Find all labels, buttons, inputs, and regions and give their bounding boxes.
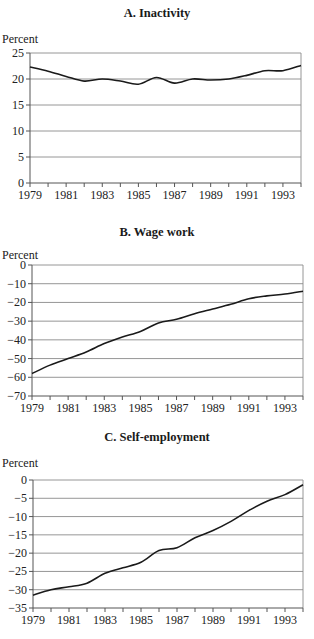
y-tick-label: −50 bbox=[7, 352, 26, 366]
y-tick-label: −15 bbox=[8, 528, 27, 542]
x-tick-label: 1987 bbox=[163, 188, 187, 202]
x-tick-label: 1983 bbox=[93, 613, 117, 627]
x-tick-label: 1983 bbox=[92, 401, 116, 415]
x-tick-label: 1993 bbox=[273, 401, 297, 415]
y-tick-label: −10 bbox=[8, 510, 27, 524]
x-tick-label: 1981 bbox=[54, 188, 78, 202]
line-chart-inactivity: 0510152025197919811983198519871989199119… bbox=[0, 0, 314, 205]
y-tick-label: −5 bbox=[14, 491, 27, 505]
x-tick-label: 1983 bbox=[90, 188, 114, 202]
x-tick-label: 1979 bbox=[18, 188, 42, 202]
x-tick-label: 1989 bbox=[199, 188, 223, 202]
x-tick-label: 1989 bbox=[201, 401, 225, 415]
y-tick-label: −10 bbox=[7, 277, 26, 291]
x-tick-label: 1987 bbox=[165, 401, 189, 415]
y-tick-label: −30 bbox=[8, 583, 27, 597]
x-tick-label: 1991 bbox=[237, 401, 261, 415]
y-tick-label: 5 bbox=[18, 150, 24, 164]
x-tick-label: 1981 bbox=[57, 613, 81, 627]
line-chart-wage-work: 0−10−20−30−40−50−60−70197919811983198519… bbox=[0, 205, 314, 415]
x-tick-label: 1987 bbox=[165, 613, 189, 627]
data-line bbox=[33, 485, 303, 595]
x-tick-label: 1985 bbox=[129, 613, 153, 627]
x-tick-label: 1993 bbox=[273, 613, 297, 627]
y-tick-label: −20 bbox=[8, 546, 27, 560]
y-tick-label: −20 bbox=[7, 295, 26, 309]
line-chart-self-employment: 0−5−10−15−20−25−30−351979198119831985198… bbox=[0, 415, 314, 639]
y-tick-label: 15 bbox=[12, 98, 24, 112]
y-tick-label: −25 bbox=[8, 564, 27, 578]
x-tick-label: 1979 bbox=[21, 613, 45, 627]
y-tick-label: 0 bbox=[20, 258, 26, 272]
panel-a-inactivity: A. Inactivity Percent 051015202519791981… bbox=[0, 0, 314, 205]
y-tick-label: 20 bbox=[12, 72, 24, 86]
y-tick-label: 25 bbox=[12, 46, 24, 60]
y-tick-label: −60 bbox=[7, 370, 26, 384]
x-tick-label: 1989 bbox=[201, 613, 225, 627]
data-line bbox=[30, 65, 301, 84]
x-tick-label: 1985 bbox=[126, 188, 150, 202]
x-tick-label: 1991 bbox=[235, 188, 259, 202]
x-tick-label: 1991 bbox=[237, 613, 261, 627]
panel-c-self-employment: C. Self-employment Percent 0−5−10−15−20−… bbox=[0, 415, 314, 639]
y-tick-label: 0 bbox=[21, 473, 27, 487]
y-tick-label: 10 bbox=[12, 124, 24, 138]
x-tick-label: 1979 bbox=[20, 401, 44, 415]
x-tick-label: 1981 bbox=[56, 401, 80, 415]
y-tick-label: −40 bbox=[7, 333, 26, 347]
panel-b-wage-work: B. Wage work Percent 0−10−20−30−40−50−60… bbox=[0, 205, 314, 415]
y-tick-label: −30 bbox=[7, 314, 26, 328]
x-tick-label: 1985 bbox=[128, 401, 152, 415]
x-tick-label: 1993 bbox=[271, 188, 295, 202]
data-line bbox=[32, 291, 303, 373]
